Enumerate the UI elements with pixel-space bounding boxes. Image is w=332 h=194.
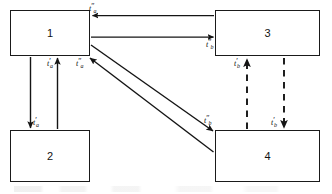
edge-label-sub: a [94,8,97,14]
edge-label-sub: b [211,44,214,50]
node-label-1: 1 [47,28,53,39]
node-box-4[interactable]: 4 [215,130,320,182]
edge-label-1-to-2: t′a [33,117,39,128]
node-box-3[interactable]: 3 [215,10,320,56]
edge-label-sub: a [36,122,39,128]
edge-label-3-to-4: t′b [271,117,277,128]
edge-label-sub: b [274,122,277,128]
edge-label-1-to-3: t″b [206,39,214,50]
node-label-3: 3 [264,28,270,39]
caption-scan-artifact [14,186,314,192]
diagram-canvas: 1 2 3 4 t″a t″b t′a t′a t″b t″a t′b t′b [0,0,332,194]
edge-label-sub: b [209,120,212,126]
edge-label-1-to-4: t″b [204,115,212,126]
edge-1-to-4-line [91,45,213,131]
edge-label-sub: a [81,63,84,69]
node-label-4: 4 [264,151,270,162]
edge-label-4-to-3: t′b [234,58,240,69]
edge-4-to-1-line [90,58,214,152]
edge-label-sub: b [237,63,240,69]
edge-label-3-to-1: t″a [89,3,97,14]
edge-label-sub: a [50,63,53,69]
edge-label-2-to-1: t′a [47,58,53,69]
edge-label-4-to-1: t″a [76,58,84,69]
node-box-2[interactable]: 2 [10,130,90,182]
node-label-2: 2 [47,151,53,162]
node-box-1[interactable]: 1 [10,10,90,56]
